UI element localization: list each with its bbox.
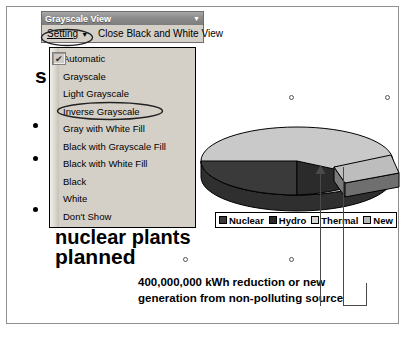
pie-chart[interactable]	[195, 99, 400, 219]
leader-line	[366, 283, 367, 306]
legend-item-nuclear: Nuclear	[219, 215, 264, 226]
annotation-caption: 400,000,000 kWh reduction or new generat…	[138, 275, 373, 306]
menu-item-inverse-grayscale[interactable]: Inverse Grayscale	[59, 103, 195, 121]
annotation-line-1: 400,000,000 kWh reduction or new	[138, 275, 373, 291]
leader-line	[343, 167, 344, 306]
menu-item-label: Black with White Fill	[63, 158, 147, 169]
selection-handle[interactable]	[289, 257, 294, 262]
toolbar-titlebar[interactable]: Grayscale View ▼	[42, 12, 203, 25]
setting-button[interactable]: Setting▼	[44, 27, 91, 40]
menu-item-grayscale[interactable]: Grayscale	[59, 68, 195, 86]
bullet-icon	[33, 156, 38, 161]
legend-label: Hydro	[279, 215, 306, 226]
caret-down-icon[interactable]: ▼	[81, 31, 88, 38]
selection-handle[interactable]	[183, 257, 188, 262]
menu-item-label: Automatic	[63, 53, 105, 64]
close-black-and-white-view-button[interactable]: Close Black and White View	[98, 28, 223, 39]
callout-arrow-head	[315, 165, 327, 177]
menu-item-label: Don't Show	[63, 211, 111, 222]
chart-legend[interactable]: Nuclear Hydro Thermal New	[215, 212, 397, 228]
menu-item-automatic[interactable]: Automatic	[59, 50, 195, 68]
legend-swatch	[363, 216, 371, 224]
menu-item-label: Black with Grayscale Fill	[63, 141, 166, 152]
menu-item-label: Gray with White Fill	[63, 123, 145, 134]
checkmark-icon[interactable]: ✔	[52, 52, 66, 65]
chevron-down-icon[interactable]: ▼	[193, 15, 200, 22]
leader-line	[343, 305, 367, 306]
legend-swatch	[311, 216, 319, 224]
annotation-line-2: generation from non-polluting source	[138, 291, 373, 307]
setting-dropdown-menu[interactable]: Automatic Grayscale Light Grayscale Inve…	[49, 47, 196, 228]
toolbar-button-row[interactable]: Setting▼ Close Black and White View	[42, 25, 203, 42]
menu-gutter	[50, 48, 59, 227]
menu-item-label: Black	[63, 176, 86, 187]
menu-item-label: Grayscale	[63, 71, 106, 82]
callout-arrow-shaft	[320, 172, 321, 306]
toolbar-title: Grayscale View	[45, 14, 193, 24]
menu-item-black[interactable]: Black	[59, 173, 195, 191]
bullet-icon	[33, 123, 38, 128]
bullet-icon	[33, 207, 38, 212]
slide-text-last-line: planned	[55, 245, 136, 269]
legend-label: Thermal	[321, 215, 358, 226]
grayscale-view-toolbar[interactable]: Grayscale View ▼ Setting▼ Close Black an…	[41, 11, 204, 43]
menu-item-list[interactable]: Automatic Grayscale Light Grayscale Inve…	[59, 48, 195, 227]
legend-swatch	[269, 216, 277, 224]
menu-item-gray-with-white-fill[interactable]: Gray with White Fill	[59, 120, 195, 138]
legend-label: New	[373, 215, 393, 226]
menu-item-dont-show[interactable]: Don't Show	[59, 208, 195, 226]
menu-item-black-with-white-fill[interactable]: Black with White Fill	[59, 155, 195, 173]
menu-item-label: Inverse Grayscale	[63, 106, 140, 117]
legend-item-new: New	[363, 215, 393, 226]
menu-item-black-with-grayscale-fill[interactable]: Black with Grayscale Fill	[59, 138, 195, 156]
menu-item-white[interactable]: White	[59, 190, 195, 208]
legend-item-hydro: Hydro	[269, 215, 306, 226]
menu-item-label: Light Grayscale	[63, 88, 129, 99]
menu-item-light-grayscale[interactable]: Light Grayscale	[59, 85, 195, 103]
legend-swatch	[219, 216, 227, 224]
legend-label: Nuclear	[229, 215, 264, 226]
legend-item-thermal: Thermal	[311, 215, 358, 226]
menu-item-label: White	[63, 193, 87, 204]
setting-button-label: Setting	[47, 28, 78, 39]
